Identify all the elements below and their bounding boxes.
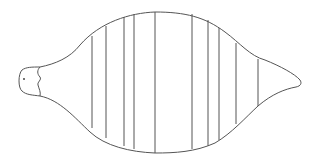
segmented-body-drawing bbox=[0, 0, 313, 161]
segment-lines bbox=[92, 12, 258, 153]
head-scallop bbox=[38, 67, 41, 96]
eye-icon bbox=[23, 78, 25, 80]
head-outline bbox=[19, 67, 40, 96]
body-outline bbox=[40, 12, 301, 153]
